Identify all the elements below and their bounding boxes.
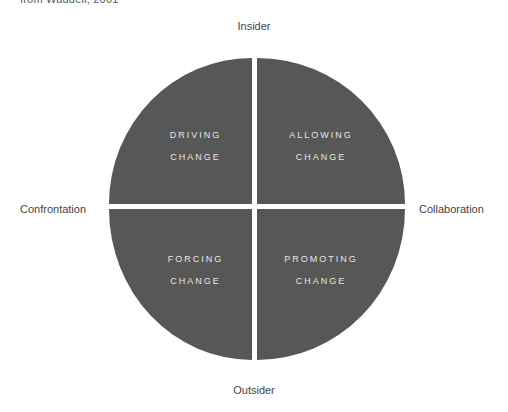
quadrant-label: PROMOTING CHANGE [284,248,358,292]
quadrant-label: FORCING CHANGE [168,248,224,292]
axis-label-outsider: Outsider [0,384,508,396]
quadrant-label-line1: PROMOTING [284,248,358,270]
quadrant-allowing-change: ALLOWING CHANGE [257,58,405,204]
quadrant-label: DRIVING CHANGE [170,124,222,168]
quadrant-driving-change: DRIVING CHANGE [109,58,252,204]
quadrant-label-line1: ALLOWING [289,124,353,146]
quadrant-label-line2: CHANGE [168,270,224,292]
quadrant-label-line2: CHANGE [284,270,358,292]
quadrant-promoting-change: PROMOTING CHANGE [257,209,405,360]
quadrant-label-line2: CHANGE [289,146,353,168]
axis-label-insider: Insider [0,20,508,32]
quadrant-label-line2: CHANGE [170,146,222,168]
quadrant-label: ALLOWING CHANGE [289,124,353,168]
quadrant-circle: DRIVING CHANGE ALLOWING CHANGE FORCING C… [109,58,405,360]
axis-label-confrontation: Confrontation [20,203,86,215]
quadrant-label-line1: FORCING [168,248,224,270]
source-caption: from Waddell, 2001 [20,0,119,5]
axis-label-collaboration: Collaboration [419,203,484,215]
quadrant-label-line1: DRIVING [170,124,222,146]
quadrant-forcing-change: FORCING CHANGE [109,209,252,360]
